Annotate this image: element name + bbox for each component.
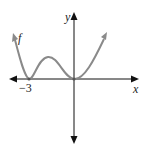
x-axis-left-arrow-icon <box>9 76 17 83</box>
y-axis-up-arrow-icon <box>71 12 78 20</box>
tick-label-neg3: −3 <box>19 81 32 95</box>
zero-point-origin <box>72 77 75 80</box>
x-axis-label: x <box>132 82 139 96</box>
y-axis-down-arrow-icon <box>71 136 78 144</box>
curve-f <box>12 32 107 81</box>
function-label: f <box>18 31 23 45</box>
y-axis-label: y <box>64 10 71 24</box>
function-graph: y x f −3 <box>0 0 145 153</box>
curve-right-arrow-icon <box>101 32 107 40</box>
